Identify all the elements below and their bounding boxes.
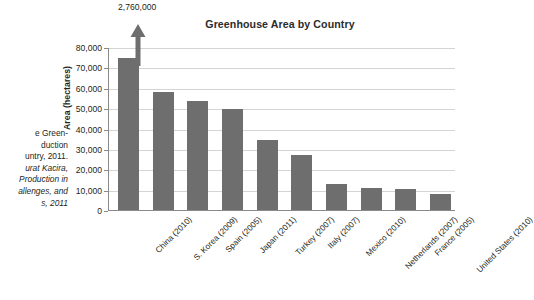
x-axis-tick-label: China (2010) — [154, 215, 194, 255]
y-axis-tick-label: 0 — [97, 206, 102, 216]
plot-area: 010,00020,00030,00040,00050,00060,00070,… — [108, 48, 455, 211]
y-axis-tick-label: 20,000 — [76, 165, 102, 175]
bar-series — [108, 48, 455, 211]
bar[interactable] — [222, 109, 243, 211]
data-label-china: 2,760,000 — [118, 2, 156, 12]
bar[interactable] — [430, 194, 451, 211]
bar[interactable] — [187, 101, 208, 211]
x-axis-tick-label: United States (2010) — [475, 215, 534, 274]
y-axis-tick-label: 40,000 — [76, 125, 102, 135]
bar[interactable] — [257, 140, 278, 211]
y-axis-title: Area (hectares) — [62, 66, 72, 130]
y-axis-tick-label: 60,000 — [76, 84, 102, 94]
bar[interactable] — [291, 155, 312, 211]
bar[interactable] — [395, 189, 416, 211]
axis-break-arrow-icon — [130, 24, 146, 66]
y-axis-tick-label: 50,000 — [76, 104, 102, 114]
y-axis-tick-label: 30,000 — [76, 145, 102, 155]
x-axis-tick-label: Japan (2011) — [258, 215, 298, 255]
x-axis-tick-label: Mexico (2010) — [364, 215, 407, 258]
bar[interactable] — [153, 92, 174, 211]
y-axis-line — [108, 48, 109, 211]
x-axis-tick-label: Turkey (2007) — [294, 215, 336, 257]
y-axis-tick-mark — [104, 211, 108, 212]
y-axis-tick-label: 10,000 — [76, 186, 102, 196]
chart-title: Greenhouse Area by Country — [150, 18, 410, 30]
y-axis-tick-label: 70,000 — [76, 63, 102, 73]
y-axis-tick-label: 80,000 — [76, 43, 102, 53]
x-axis-line — [108, 210, 455, 211]
bar[interactable] — [361, 188, 382, 211]
bar[interactable] — [326, 184, 347, 212]
bar[interactable] — [118, 58, 139, 211]
